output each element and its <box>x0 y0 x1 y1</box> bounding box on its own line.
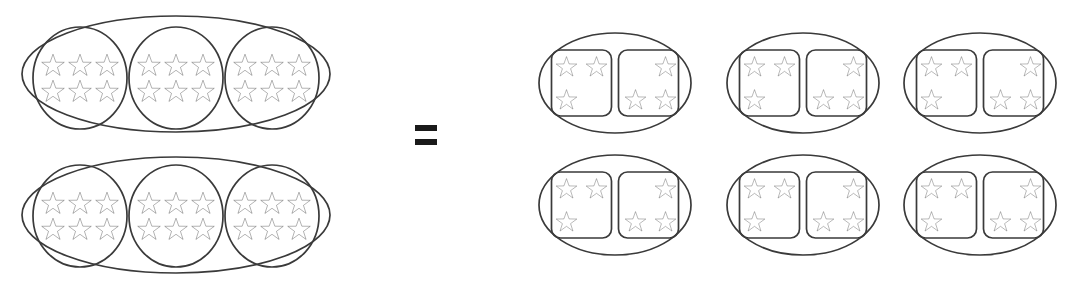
right-group-r2c3-box-1[interactable] <box>917 172 977 238</box>
left-outer-1-inner-1[interactable] <box>33 27 127 129</box>
right-group-r2c1-box-1[interactable] <box>552 172 612 238</box>
right-group-r2c2[interactable] <box>727 155 879 255</box>
right-group-r2c3[interactable] <box>904 155 1056 255</box>
left-outer-2-inner-1-outline <box>33 165 127 267</box>
right-group-r1c3-box-1[interactable] <box>917 50 977 116</box>
right-group-r1c2[interactable] <box>727 33 879 133</box>
diagram-canvas <box>0 0 1089 283</box>
right-group-r1c1[interactable] <box>539 33 691 133</box>
left-outer-2-inner-1[interactable] <box>33 165 127 267</box>
right-group-r2c1[interactable] <box>539 155 691 255</box>
equals-sign <box>415 125 437 145</box>
right-expression <box>539 33 1056 255</box>
left-outer-1-inner-2[interactable] <box>129 27 223 129</box>
left-outer-group-1[interactable] <box>22 16 330 132</box>
left-outer-2-inner-2[interactable] <box>129 165 223 267</box>
equal-groups-figure <box>0 0 1089 283</box>
left-outer-2-inner-2-outline <box>129 165 223 267</box>
right-group-r1c2-box-1[interactable] <box>740 50 800 116</box>
left-outer-group-2[interactable] <box>22 157 330 273</box>
left-outer-1-inner-2-outline <box>129 27 223 129</box>
left-outer-1-inner-3[interactable] <box>225 27 319 129</box>
left-outer-2-inner-3[interactable] <box>225 165 319 267</box>
right-group-r1c3[interactable] <box>904 33 1056 133</box>
left-outer-2-inner-3-outline <box>225 165 319 267</box>
equals-bar-1 <box>415 125 437 131</box>
left-outer-1-inner-3-outline <box>225 27 319 129</box>
equals-bar-2 <box>415 139 437 145</box>
right-group-r2c2-box-1[interactable] <box>740 172 800 238</box>
left-expression <box>22 16 330 273</box>
right-group-r1c1-box-1[interactable] <box>552 50 612 116</box>
left-outer-1-inner-1-outline <box>33 27 127 129</box>
